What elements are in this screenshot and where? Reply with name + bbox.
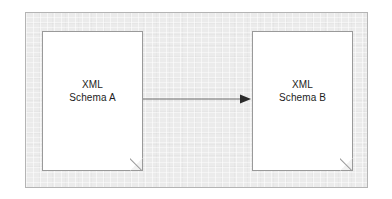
arrow-connector-a-to-b[interactable]	[143, 93, 252, 105]
document-label-schema-b: XML Schema B	[252, 78, 353, 104]
diagram-frame: XML Schema A XML Schema B	[25, 12, 368, 188]
arrow-right-icon	[143, 93, 252, 105]
document-node-schema-a[interactable]: XML Schema A	[42, 31, 143, 171]
diagram-canvas: XML Schema A XML Schema B	[0, 0, 392, 199]
document-label-schema-a: XML Schema A	[42, 78, 143, 104]
document-node-schema-b[interactable]: XML Schema B	[252, 31, 353, 171]
